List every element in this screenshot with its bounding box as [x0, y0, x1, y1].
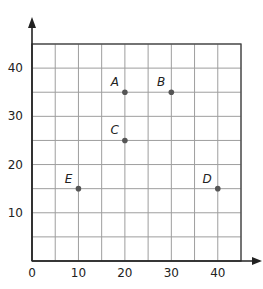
coordinate-grid-chart: 01020304010203040 ABCDE [0, 0, 263, 289]
axes [28, 17, 262, 265]
point-label: A [110, 75, 119, 89]
y-tick-label: 30 [8, 109, 23, 123]
x-axis-arrow-icon [252, 257, 262, 265]
x-tick-label: 0 [28, 266, 36, 280]
x-tick-label: 40 [210, 266, 225, 280]
x-tick-label: 30 [164, 266, 179, 280]
point-marker-icon [122, 89, 128, 95]
point-marker-icon [215, 186, 221, 192]
grid-border [32, 44, 241, 261]
grid-lines [32, 44, 241, 261]
y-tick-label: 20 [8, 158, 23, 172]
y-tick-label: 10 [8, 206, 23, 220]
x-tick-label: 10 [71, 266, 86, 280]
point-label: E [65, 172, 73, 186]
point-label: C [110, 123, 119, 137]
point-label: B [157, 75, 165, 89]
point-label: D [203, 172, 212, 186]
y-tick-label: 40 [8, 61, 23, 75]
x-tick-label: 20 [117, 266, 132, 280]
point-marker-icon [76, 186, 82, 192]
point-marker-icon [122, 138, 128, 144]
tick-labels: 01020304010203040 [8, 61, 226, 280]
y-axis-arrow-icon [28, 17, 36, 28]
point-marker-icon [169, 89, 175, 95]
